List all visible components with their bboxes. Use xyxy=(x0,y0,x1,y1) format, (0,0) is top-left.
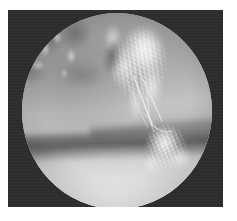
endoscopic-photograph xyxy=(8,10,223,207)
page-root xyxy=(0,0,237,221)
villous-fronds-lower-right xyxy=(140,119,197,182)
circular-field-of-view xyxy=(22,13,212,207)
villous-fronds-central xyxy=(98,25,170,127)
